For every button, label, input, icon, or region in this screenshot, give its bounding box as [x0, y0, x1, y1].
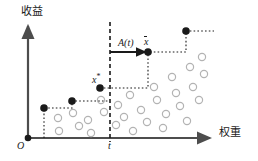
- x-bar-step-path: [150, 31, 214, 52]
- dominated-point: [176, 102, 183, 109]
- dominated-point: [126, 91, 133, 98]
- interval-label-a-of-t: A(t): [118, 38, 134, 48]
- x-bar-letter: x: [144, 36, 148, 47]
- dominated-point: [97, 96, 104, 103]
- dominated-point: [162, 110, 169, 117]
- dominated-point: [114, 101, 121, 108]
- scatter-diagram-figure: 收益 权重 O t A(t) x x*: [0, 0, 258, 161]
- dominated-point: [159, 124, 166, 131]
- frontier-point-x-star: [96, 84, 104, 92]
- t-tick-label: t: [108, 141, 111, 151]
- dominated-point: [137, 106, 144, 113]
- dominated-point: [120, 113, 127, 120]
- dominated-point: [143, 118, 150, 125]
- dominated-point: [100, 108, 107, 115]
- dominated-point: [69, 109, 76, 116]
- dominated-point-group: [54, 53, 207, 136]
- x-star-superscript: *: [96, 72, 100, 81]
- dominated-point: [112, 121, 119, 128]
- dominated-point: [55, 127, 62, 134]
- lower-step-path: [44, 101, 108, 138]
- dominated-point: [150, 83, 157, 90]
- dominated-point: [183, 117, 190, 124]
- dominated-point: [198, 53, 205, 60]
- overbar-stroke: [144, 36, 147, 37]
- frontier-point-x-bar: [144, 48, 152, 56]
- x-star-step-path: [100, 54, 148, 88]
- origin-marker: [25, 135, 32, 142]
- dominated-point: [75, 122, 82, 129]
- y-axis-label: 收益: [21, 6, 43, 17]
- dominated-point: [189, 83, 196, 90]
- x-bar-glyph: x: [144, 37, 148, 47]
- frontier-point: [68, 97, 76, 105]
- x-bar-label: x: [144, 37, 148, 47]
- dominated-point: [153, 96, 160, 103]
- frontier-point: [40, 104, 48, 112]
- dominated-point: [54, 114, 61, 121]
- frontier-point: [182, 27, 190, 35]
- dominated-point: [87, 129, 94, 136]
- dominated-point: [129, 127, 136, 134]
- x-star-label: x*: [92, 73, 100, 85]
- dominated-point: [84, 116, 91, 123]
- frontier-point-group: [40, 27, 190, 112]
- x-axis-label: 权重: [219, 127, 241, 138]
- dominated-point: [186, 63, 193, 70]
- origin-label: O: [17, 141, 24, 151]
- dominated-point: [172, 89, 179, 96]
- dominated-point: [200, 70, 207, 77]
- dominated-point: [195, 96, 202, 103]
- dominated-point: [168, 73, 175, 80]
